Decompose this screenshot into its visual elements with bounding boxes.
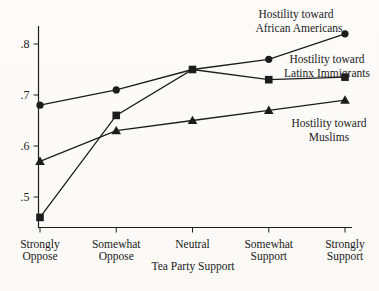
x-tick-label: Oppose [22, 250, 57, 263]
data-point-square-marker [189, 66, 197, 74]
x-axis-title: Tea Party Support [152, 260, 236, 273]
series-label-latinx-immigrants-line2: Latinx Immigrants [284, 67, 370, 80]
x-tick-label: Somewhat [244, 238, 293, 250]
series-label-muslims-line1: Hostility toward [291, 117, 366, 130]
x-tick-label: Support [251, 250, 288, 263]
y-tick-label: .8 [21, 37, 30, 51]
series-label-african-americans-line2: African Americans [255, 22, 343, 34]
series-label-african-americans-line1: Hostility toward [258, 8, 333, 21]
y-axis-ticks: .5.6.7.8 [21, 37, 39, 204]
y-tick-label: .6 [21, 139, 30, 153]
data-point-circle-marker [265, 56, 272, 63]
x-tick-label: Neutral [175, 238, 209, 250]
scanned-chart-page: .5.6.7.8 StronglyOpposeSomewhatOpposeNeu… [0, 0, 379, 291]
series-label-latinx-immigrants-line1: Hostility toward [289, 53, 364, 66]
y-tick-label: .5 [21, 190, 30, 204]
series-annotations: Hostility toward African Americans Hosti… [255, 8, 370, 143]
data-point-square-marker [112, 112, 120, 120]
series-line-triangle [40, 100, 345, 161]
data-point-circle-marker [36, 102, 43, 109]
data-point-circle-marker [113, 86, 120, 93]
tea-party-hostility-line-chart: .5.6.7.8 StronglyOpposeSomewhatOpposeNeu… [0, 0, 379, 291]
x-tick-label: Oppose [99, 250, 134, 263]
series-label-muslims-line2: Muslims [309, 131, 350, 143]
x-tick-label: Support [327, 250, 364, 263]
data-point-square-marker [36, 214, 44, 222]
x-tick-label: Somewhat [92, 238, 141, 250]
x-axis-ticks: StronglyOpposeSomewhatOpposeNeutralSomew… [20, 228, 365, 264]
data-point-square-marker [265, 76, 273, 84]
data-point-triangle-marker [35, 157, 45, 165]
y-tick-label: .7 [21, 88, 30, 102]
data-point-triangle-marker [340, 95, 350, 103]
